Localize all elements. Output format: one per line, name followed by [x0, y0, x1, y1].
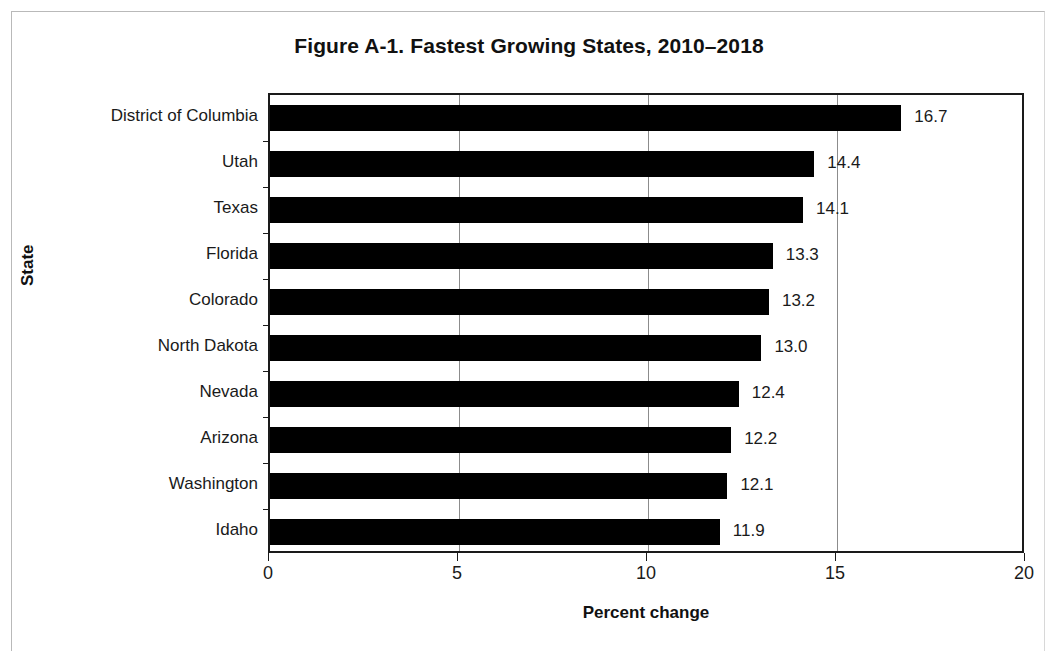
y-axis-tick: [263, 371, 270, 372]
bar-slot: 14.4: [270, 141, 1022, 187]
x-axis-tick-label: 5: [427, 563, 487, 584]
bar-value-label: 16.7: [914, 104, 947, 130]
bar-slot: 12.2: [270, 417, 1022, 463]
bar-value-label: 14.4: [827, 150, 860, 176]
bar: [270, 519, 720, 545]
category-label: North Dakota: [8, 333, 258, 359]
category-label: Arizona: [8, 425, 258, 451]
bar: [270, 473, 727, 499]
category-label: Washington: [8, 471, 258, 497]
category-label: Florida: [8, 241, 258, 267]
category-label: District of Columbia: [8, 103, 258, 129]
bar-slot: 14.1: [270, 187, 1022, 233]
bar-slot: 13.3: [270, 233, 1022, 279]
bar-value-label: 12.1: [740, 472, 773, 498]
bar-slot: 11.9: [270, 509, 1022, 555]
category-label: Texas: [8, 195, 258, 221]
bar: [270, 243, 773, 269]
y-axis-tick: [263, 417, 270, 418]
y-axis-tick: [263, 141, 270, 142]
y-axis-tick: [263, 187, 270, 188]
plot-area: 16.714.414.113.313.213.012.412.212.111.9: [268, 93, 1024, 553]
bar-slot: 13.2: [270, 279, 1022, 325]
bar: [270, 197, 803, 223]
bar: [270, 289, 769, 315]
bar-slot: 16.7: [270, 95, 1022, 141]
bar-value-label: 11.9: [733, 518, 765, 544]
y-axis-tick: [263, 463, 270, 464]
x-axis-tick: [1024, 553, 1025, 561]
x-axis-title: Percent change: [268, 603, 1024, 623]
y-axis-tick: [263, 509, 270, 510]
bar-value-label: 12.2: [744, 426, 777, 452]
x-axis-tick: [457, 553, 458, 561]
category-label: Idaho: [8, 517, 258, 543]
bar-value-label: 13.3: [786, 242, 819, 268]
y-axis-tick: [263, 233, 270, 234]
bar-value-label: 14.1: [816, 196, 849, 222]
bar: [270, 427, 731, 453]
bar-value-label: 12.4: [752, 380, 785, 406]
category-label: Nevada: [8, 379, 258, 405]
bar: [270, 335, 761, 361]
bar: [270, 151, 814, 177]
figure-page: Figure A-1. Fastest Growing States, 2010…: [0, 0, 1058, 658]
x-axis-tick-label: 15: [805, 563, 865, 584]
bar: [270, 105, 901, 131]
x-axis-tick: [268, 553, 269, 561]
bar-slot: 12.1: [270, 463, 1022, 509]
x-axis-tick-label: 10: [616, 563, 676, 584]
bar: [270, 381, 739, 407]
bar-slot: 12.4: [270, 371, 1022, 417]
x-axis-tick-label: 0: [238, 563, 298, 584]
x-axis-tick-label: 20: [994, 563, 1054, 584]
bar-slot: 13.0: [270, 325, 1022, 371]
x-axis-tick: [646, 553, 647, 561]
y-axis-tick: [263, 325, 270, 326]
category-label: Utah: [8, 149, 258, 175]
y-axis-tick: [263, 279, 270, 280]
category-label: Colorado: [8, 287, 258, 313]
chart-title: Figure A-1. Fastest Growing States, 2010…: [0, 34, 1058, 58]
x-axis-tick: [835, 553, 836, 561]
bar-value-label: 13.0: [774, 334, 807, 360]
category-axis-labels: District of ColumbiaUtahTexasFloridaColo…: [0, 93, 258, 553]
bar-value-label: 13.2: [782, 288, 815, 314]
